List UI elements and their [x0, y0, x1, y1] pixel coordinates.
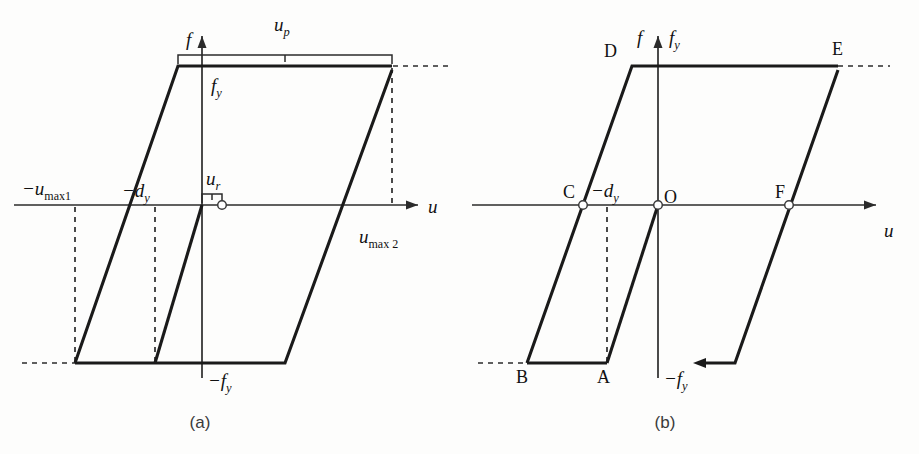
neg-umax1-label: −umax1 — [22, 178, 71, 203]
loop-upper-branch-a — [75, 66, 392, 363]
point-A-label: A — [597, 367, 610, 387]
neg-dy-label-a: −dy — [122, 180, 150, 205]
u-axis-label-a: u — [428, 196, 438, 217]
point-O-label: O — [664, 187, 677, 207]
up-label: up — [274, 14, 290, 39]
ur-label: ur — [206, 168, 221, 193]
caption-b: (b) — [655, 413, 676, 432]
point-C-label: C — [563, 182, 575, 202]
hysteresis-figure: f u up fy ur −umax1 −dy umax 2 −fy (a) — [0, 0, 919, 454]
point-C-marker — [579, 201, 588, 210]
point-E-label: E — [832, 39, 843, 59]
neg-fy-label-b: −fy — [664, 368, 688, 393]
caption-a: (a) — [190, 413, 211, 432]
f-axis-arrowhead-b — [654, 36, 663, 48]
neg-fy-label-a: −fy — [208, 370, 232, 395]
point-O-marker — [654, 201, 663, 210]
neg-dy-label-b: −dy — [591, 180, 619, 205]
u-axis-arrowhead-b — [864, 201, 876, 210]
u-axis-arrowhead-a — [406, 201, 418, 210]
loop-direction-arrowhead-b — [693, 358, 706, 368]
fy-label-b: fy — [669, 27, 680, 52]
point-B-label: B — [516, 367, 528, 387]
f-axis-label-b: f — [637, 27, 645, 48]
figure-svg: f u up fy ur −umax1 −dy umax 2 −fy (a) — [0, 0, 919, 454]
loop-lower-branch-a — [75, 70, 392, 363]
panel-b: f fy u −dy −fy D E C O F B A (b) — [472, 27, 894, 432]
loop-inner-branch-b — [607, 205, 658, 363]
loop-lower-branch-b — [700, 70, 838, 363]
loop-upper-branch-b — [527, 66, 838, 363]
ur-node-marker — [218, 201, 227, 210]
fy-label-a: fy — [211, 75, 222, 100]
loop-inner-branch-a — [155, 205, 202, 363]
umax2-label: umax 2 — [359, 226, 398, 251]
point-D-label: D — [604, 41, 617, 61]
f-axis-arrowhead-a — [198, 36, 207, 48]
point-F-marker — [785, 201, 794, 210]
panel-a: f u up fy ur −umax1 −dy umax 2 −fy (a) — [14, 14, 448, 432]
f-axis-label-a: f — [186, 29, 194, 50]
u-axis-label-b: u — [884, 220, 894, 241]
point-F-label: F — [775, 182, 785, 202]
